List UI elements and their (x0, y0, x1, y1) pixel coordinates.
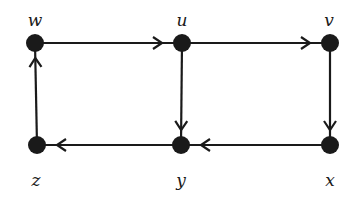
node-z (28, 136, 46, 154)
node-label-u: u (177, 10, 188, 30)
node-label-z: z (32, 170, 41, 190)
node-label-y: y (176, 170, 186, 190)
node-y (172, 136, 190, 154)
edge-w-u (35, 37, 182, 49)
graph-canvas: wuvzyx (0, 0, 355, 201)
node-x (321, 136, 339, 154)
node-v (321, 34, 339, 52)
node-w (26, 34, 44, 52)
node-label-v: v (324, 10, 334, 30)
node-u (173, 34, 191, 52)
node-label-x: x (325, 170, 335, 190)
edge-y-z (37, 139, 181, 151)
edge-z-w (29, 43, 41, 145)
edge-v-x (324, 43, 336, 145)
node-label-w: w (28, 10, 43, 30)
edge-u-y (175, 43, 187, 145)
edge-x-y (181, 139, 330, 151)
edge-u-v (182, 37, 330, 49)
